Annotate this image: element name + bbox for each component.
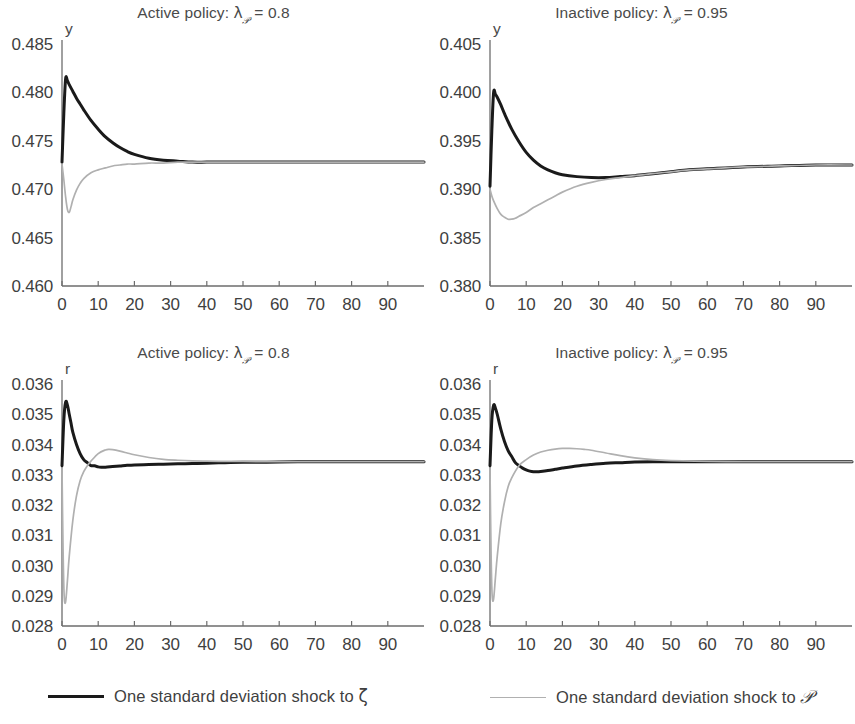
x-tick-label: 0	[57, 295, 66, 314]
y-tick-label: 0.390	[439, 180, 481, 199]
x-tick-label: 60	[270, 635, 289, 654]
y-tick-label: 0.033	[439, 466, 481, 485]
y-axis-name: r	[493, 360, 498, 377]
series-line-zeta	[62, 77, 424, 163]
y-tick-label: 0.030	[439, 557, 481, 576]
y-tick-label: 0.470	[11, 180, 53, 199]
plot-area-top-right: y0.3800.3850.3900.3950.4000.405010203040…	[428, 0, 855, 336]
x-tick-label: 50	[234, 295, 253, 314]
x-tick-label: 90	[379, 635, 398, 654]
x-tick-label: 60	[698, 295, 717, 314]
x-tick-label: 50	[234, 635, 253, 654]
x-tick-label: 10	[517, 295, 536, 314]
x-tick-label: 80	[342, 635, 361, 654]
plot-area-bottom-left: r0.0280.0290.0300.0310.0320.0330.0340.03…	[0, 340, 427, 676]
y-tick-label: 0.035	[11, 405, 53, 424]
x-tick-label: 10	[89, 635, 108, 654]
x-tick-label: 70	[306, 295, 325, 314]
x-tick-label: 30	[161, 635, 180, 654]
zeta-symbol: ζ	[358, 686, 367, 706]
y-axis-name: y	[65, 20, 73, 37]
x-tick-label: 80	[770, 635, 789, 654]
y-tick-label: 0.034	[11, 436, 53, 455]
x-tick-label: 90	[379, 295, 398, 314]
y-tick-label: 0.395	[439, 132, 481, 151]
y-tick-label: 0.035	[439, 405, 481, 424]
x-tick-label: 10	[517, 635, 536, 654]
x-tick-label: 20	[125, 635, 144, 654]
x-tick-label: 80	[342, 295, 361, 314]
legend-entry-zeta: One standard deviation shock to ζ	[48, 686, 368, 706]
y-tick-label: 0.475	[11, 132, 53, 151]
x-tick-label: 30	[161, 295, 180, 314]
y-tick-label: 0.405	[439, 35, 481, 54]
x-tick-label: 70	[306, 635, 325, 654]
panel-bottom-left: Active policy: λ𝒫 = 0.8 r0.0280.0290.030…	[0, 340, 427, 676]
series-line-script-p	[62, 449, 424, 603]
x-tick-label: 20	[553, 295, 572, 314]
y-tick-label: 0.036	[439, 375, 481, 394]
y-tick-label: 0.400	[439, 83, 481, 102]
x-tick-label: 30	[589, 295, 608, 314]
x-tick-label: 90	[807, 635, 826, 654]
x-tick-label: 60	[270, 295, 289, 314]
y-tick-label: 0.032	[11, 496, 53, 515]
x-tick-label: 20	[553, 635, 572, 654]
plot-area-bottom-right: r0.0280.0290.0300.0310.0320.0330.0340.03…	[428, 340, 855, 676]
y-axis-name: y	[493, 20, 501, 37]
x-tick-label: 60	[698, 635, 717, 654]
x-tick-label: 40	[198, 635, 217, 654]
legend-line-swatch-zeta	[48, 695, 104, 698]
series-line-script-p	[62, 162, 424, 213]
y-tick-label: 0.028	[439, 617, 481, 636]
y-tick-label: 0.036	[11, 375, 53, 394]
y-tick-label: 0.385	[439, 229, 481, 248]
script-p-symbol: 𝒫	[800, 686, 813, 707]
x-tick-label: 40	[626, 295, 645, 314]
panel-top-right: Inactive policy: λ𝒫 = 0.95 y0.3800.3850.…	[428, 0, 855, 336]
x-tick-label: 0	[57, 635, 66, 654]
y-tick-label: 0.480	[11, 83, 53, 102]
x-tick-label: 20	[125, 295, 144, 314]
y-tick-label: 0.033	[11, 466, 53, 485]
y-tick-label: 0.030	[11, 557, 53, 576]
y-tick-label: 0.460	[11, 277, 53, 296]
series-line-zeta	[62, 401, 424, 467]
legend-line-swatch-script-p	[490, 697, 546, 698]
x-tick-label: 70	[734, 295, 753, 314]
impulse-response-figure: Active policy: λ𝒫 = 0.8 y0.4600.4650.470…	[0, 0, 855, 724]
x-tick-label: 50	[662, 635, 681, 654]
x-tick-label: 0	[485, 295, 494, 314]
legend-entry-script-p: One standard deviation shock to 𝒫	[490, 686, 814, 708]
y-tick-label: 0.034	[439, 436, 481, 455]
panel-bottom-right: Inactive policy: λ𝒫 = 0.95 r0.0280.0290.…	[428, 340, 855, 676]
x-tick-label: 80	[770, 295, 789, 314]
x-tick-label: 10	[89, 295, 108, 314]
y-tick-label: 0.029	[439, 587, 481, 606]
y-tick-label: 0.380	[439, 277, 481, 296]
legend-label-zeta: One standard deviation shock to ζ	[114, 686, 368, 706]
x-tick-label: 70	[734, 635, 753, 654]
y-tick-label: 0.031	[11, 526, 53, 545]
x-tick-label: 90	[807, 295, 826, 314]
y-tick-label: 0.465	[11, 229, 53, 248]
x-tick-label: 40	[626, 635, 645, 654]
panel-top-left: Active policy: λ𝒫 = 0.8 y0.4600.4650.470…	[0, 0, 427, 336]
plot-area-top-left: y0.4600.4650.4700.4750.4800.485010203040…	[0, 0, 427, 336]
x-tick-label: 40	[198, 295, 217, 314]
x-tick-label: 30	[589, 635, 608, 654]
x-tick-label: 50	[662, 295, 681, 314]
y-tick-label: 0.029	[11, 587, 53, 606]
figure-legend: One standard deviation shock to ζ One st…	[0, 678, 855, 724]
y-tick-label: 0.028	[11, 617, 53, 636]
legend-label-script-p: One standard deviation shock to 𝒫	[556, 686, 814, 708]
y-tick-label: 0.485	[11, 35, 53, 54]
x-tick-label: 0	[485, 635, 494, 654]
y-tick-label: 0.032	[439, 496, 481, 515]
y-tick-label: 0.031	[439, 526, 481, 545]
y-axis-name: r	[65, 360, 70, 377]
